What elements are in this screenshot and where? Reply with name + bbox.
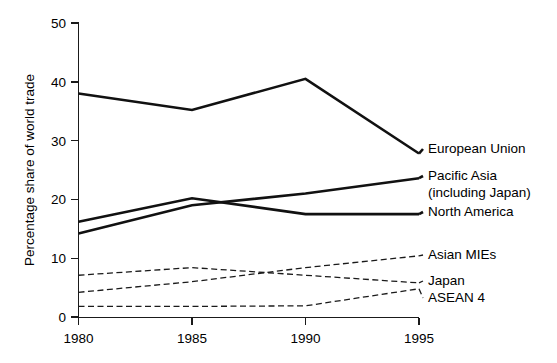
series-line-2 [79,198,420,222]
series-leader-1 [419,176,423,178]
x-tick-label: 1985 [177,331,207,346]
line-chart: 01020304050 Percentage share of world tr… [0,0,557,363]
y-tick-label: 50 [51,16,66,31]
x-tick-label: 1995 [404,331,434,346]
y-tick-label: 10 [51,251,66,266]
series-leader-0 [419,149,423,154]
y-axis-group: 01020304050 Percentage share of world tr… [22,16,79,325]
x-axis-ticks: 1980198519901995 [63,318,434,347]
x-axis-group: 1980198519901995 [63,318,434,347]
series-label-1: Pacific Asia [428,168,498,183]
x-tick-label: 1980 [63,331,93,346]
series-label-2: North America [428,204,514,219]
y-axis-ticks: 01020304050 [51,16,79,325]
series-labels-group: European UnionPacific Asia(including Jap… [428,141,531,305]
series-leader-4 [419,281,423,283]
series-line-3 [79,256,420,292]
y-axis-title: Percentage share of world trade [22,74,37,266]
series-paths-group [79,79,424,307]
series-line-5 [79,289,420,307]
chart-container: 01020304050 Percentage share of world tr… [0,0,557,363]
series-label-3: Asian MIEs [428,247,497,262]
series-line-0 [79,79,420,154]
series-label-5: ASEAN 4 [428,290,486,305]
y-tick-label: 0 [58,310,66,325]
series-leader-2 [419,212,423,214]
y-tick-label: 20 [51,192,66,207]
x-tick-label: 1990 [290,331,320,346]
series-leader-5 [419,289,423,298]
series-leader-3 [419,255,423,256]
y-tick-label: 30 [51,134,66,149]
y-tick-label: 40 [51,75,66,90]
series-label-1-line2: (including Japan) [428,185,531,200]
series-label-0: European Union [428,141,526,156]
series-label-4: Japan [428,273,465,288]
